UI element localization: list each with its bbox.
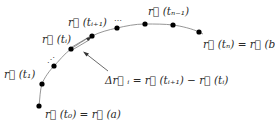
point-t1 <box>39 81 44 86</box>
label-delta-r: Δr⃗ ᵢ = r⃗ (tᵢ₊₁) − r⃗ (tᵢ) <box>105 75 228 86</box>
point-p5 <box>114 25 119 30</box>
label-r-t0: r⃗ (t₀) = r⃗ (a) <box>45 109 121 120</box>
label-r-t1: r⃗ (t₁) <box>4 69 35 80</box>
delta-r-vector <box>72 37 92 50</box>
point-p6 <box>142 21 147 26</box>
label-r-tn: r⃗ (tₙ) = r⃗ (b) <box>203 39 275 50</box>
point-t0 <box>36 103 41 108</box>
label-r-tn1: r⃗ (tₙ₋₁) <box>148 6 189 17</box>
ellipsis-upper: ⋯ <box>114 17 122 25</box>
point-ti1 <box>89 33 94 38</box>
diagram-graphics <box>0 0 275 129</box>
label-r-ti: r⃗ (tᵢ) <box>42 34 71 45</box>
curve-partition-diagram: r⃗ (t₀) = r⃗ (a) r⃗ (t₁) r⃗ (tᵢ) r⃗ (tᵢ₊… <box>0 0 275 129</box>
pointer-arrow <box>83 52 108 72</box>
point-tn <box>196 29 201 34</box>
ellipsis-lower: ⋰ <box>47 56 55 64</box>
label-r-ti1: r⃗ (tᵢ₊₁) <box>68 17 107 28</box>
point-t2 <box>51 63 56 68</box>
point-ti <box>68 46 73 51</box>
point-tn1 <box>170 22 175 27</box>
